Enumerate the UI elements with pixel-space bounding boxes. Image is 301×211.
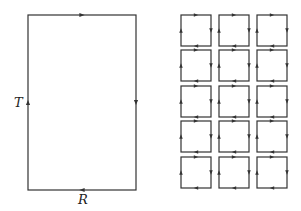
arrow-down-icon [285,170,289,174]
small-loop-r2-c1 [179,48,213,83]
arrow-left-icon [194,44,198,48]
arrow-down-icon [247,170,251,174]
arrow-down-icon [285,134,289,138]
arrow-up-icon [26,100,30,105]
small-loop-r3-c1 [179,84,213,119]
small-loop-r1-c1 [179,13,213,48]
small-loop-r5-c3 [255,155,289,190]
arrow-up-icon [179,63,183,67]
small-loop-r3-c2 [217,84,251,119]
arrow-down-icon [247,134,251,138]
arrow-down-icon [209,63,213,67]
arrow-left-icon [270,150,274,154]
arrow-down-icon [209,134,213,138]
small-loop-r4-c2 [217,119,251,154]
arrow-left-icon [232,150,236,154]
arrow-left-icon [232,44,236,48]
arrow-up-icon [179,170,183,174]
arrow-right-icon [232,84,236,88]
arrow-up-icon [217,63,221,67]
arrow-left-icon [270,115,274,119]
arrow-right-icon [232,155,236,159]
arrow-right-icon [79,13,84,17]
arrow-down-icon [209,99,213,103]
arrow-left-icon [194,115,198,119]
arrow-up-icon [179,28,183,32]
arrow-right-icon [194,119,198,123]
arrow-up-icon [179,134,183,138]
arrow-right-icon [194,84,198,88]
arrow-left-icon [232,115,236,119]
small-loop-r2-c2 [217,48,251,83]
loop-diagram [0,0,301,211]
arrow-right-icon [194,155,198,159]
small-loop-r3-c3 [255,84,289,119]
arrow-left-icon [194,150,198,154]
arrow-right-icon [270,13,274,17]
arrow-left-icon [232,79,236,83]
arrow-up-icon [217,170,221,174]
arrow-right-icon [270,119,274,123]
arrow-down-icon [285,28,289,32]
arrow-down-icon [285,99,289,103]
arrow-right-icon [194,48,198,52]
arrow-left-icon [270,79,274,83]
arrow-left-icon [232,186,236,190]
arrow-up-icon [217,134,221,138]
arrow-right-icon [270,155,274,159]
arrow-up-icon [179,99,183,103]
arrow-up-icon [217,28,221,32]
arrow-up-icon [255,170,259,174]
small-loop-r1-c2 [217,13,251,48]
small-loop-r4-c1 [179,119,213,154]
arrow-up-icon [255,63,259,67]
arrow-down-icon [285,63,289,67]
arrow-right-icon [232,48,236,52]
arrow-right-icon [232,13,236,17]
arrow-right-icon [270,84,274,88]
arrow-down-icon [209,170,213,174]
small-loop-r2-c3 [255,48,289,83]
arrow-up-icon [217,99,221,103]
small-loop-r5-c2 [217,155,251,190]
arrow-right-icon [270,48,274,52]
arrow-left-icon [270,186,274,190]
arrow-down-icon [247,63,251,67]
arrow-down-icon [134,100,138,105]
arrow-down-icon [247,28,251,32]
arrow-up-icon [255,99,259,103]
arrow-left-icon [194,186,198,190]
arrow-left-icon [194,79,198,83]
small-loop-r4-c3 [255,119,289,154]
label-r: R [78,192,88,207]
small-loop-r1-c3 [255,13,289,48]
arrow-up-icon [255,28,259,32]
arrow-down-icon [209,28,213,32]
label-t: T [14,95,23,110]
arrow-left-icon [270,44,274,48]
arrow-right-icon [194,13,198,17]
arrow-down-icon [247,99,251,103]
small-loop-r5-c1 [179,155,213,190]
arrow-right-icon [232,119,236,123]
big-loop [26,13,138,192]
arrow-up-icon [255,134,259,138]
